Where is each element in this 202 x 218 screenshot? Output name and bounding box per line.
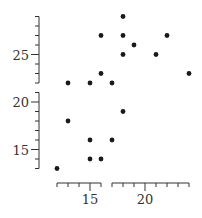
data-point bbox=[88, 138, 93, 143]
y-tick-label: 15 bbox=[12, 143, 29, 158]
data-point bbox=[88, 81, 93, 86]
data-point bbox=[165, 33, 170, 38]
data-point bbox=[99, 157, 104, 162]
data-point bbox=[132, 43, 137, 48]
x-tick-label: 20 bbox=[137, 192, 154, 207]
data-point bbox=[99, 71, 104, 76]
data-point bbox=[154, 52, 159, 57]
data-point bbox=[110, 138, 115, 143]
y-tick-label: 20 bbox=[12, 95, 29, 110]
data-point bbox=[55, 166, 60, 171]
data-point bbox=[121, 109, 126, 114]
data-point bbox=[121, 52, 126, 57]
y-tick-label: 25 bbox=[12, 48, 29, 63]
y-axis: 152025 bbox=[12, 17, 39, 169]
x-axis: 1520 bbox=[57, 183, 189, 207]
data-point bbox=[121, 33, 126, 38]
data-point bbox=[187, 71, 192, 76]
scatter-chart: 152025 1520 bbox=[0, 0, 202, 218]
data-point bbox=[88, 157, 93, 162]
data-points bbox=[55, 14, 192, 171]
data-point bbox=[66, 119, 71, 124]
x-tick-label: 15 bbox=[82, 192, 99, 207]
data-point bbox=[66, 81, 71, 86]
data-point bbox=[121, 14, 126, 19]
data-point bbox=[110, 81, 115, 86]
data-point bbox=[99, 33, 104, 38]
